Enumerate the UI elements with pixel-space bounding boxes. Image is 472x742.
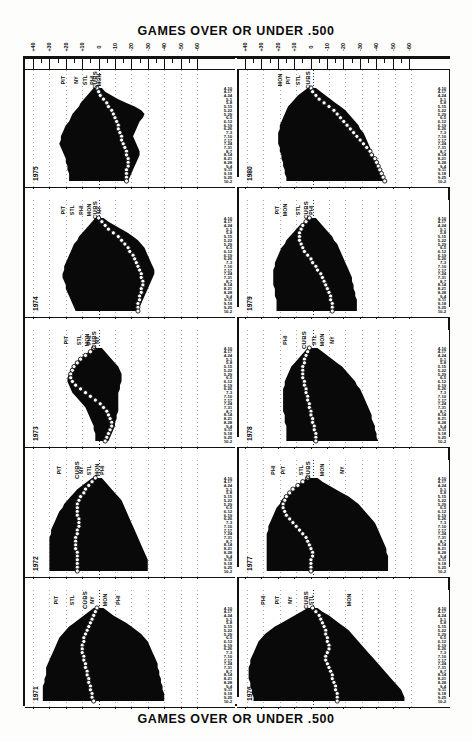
team-label-pit: PIT: [53, 596, 59, 605]
team-label-mon: MON: [346, 594, 352, 607]
axis-tick-label: -10: [324, 43, 330, 51]
cubs-data-point: [136, 309, 140, 313]
season-panel-1977: PHIPITSTLCUBSMONNY19774-104-174-245-15-8…: [239, 460, 449, 577]
cubs-data-point: [314, 93, 318, 97]
team-label-cubs: CUBS: [305, 71, 311, 89]
team-label-stl: STL: [69, 595, 75, 605]
date-label: 10-2: [224, 569, 232, 574]
cubs-data-point: [335, 699, 339, 703]
team-label-pit: PIT: [60, 76, 66, 85]
cubs-data-point: [75, 361, 79, 365]
cubs-data-point: [101, 405, 105, 409]
cubs-data-point: [311, 90, 315, 94]
cubs-data-point: [93, 476, 97, 480]
team-label-pit: PIT: [280, 466, 286, 475]
cubs-data-point: [311, 261, 315, 265]
team-label-ny: NY: [329, 336, 335, 344]
team-label-phi: PHI: [260, 595, 266, 604]
season-year-label: 1976: [246, 686, 253, 701]
standings-spread-band: [49, 478, 147, 571]
cubs-data-point: [288, 517, 292, 521]
series-layer: [239, 200, 449, 317]
date-label: 10-2: [438, 569, 446, 574]
team-label-stl: STL: [311, 335, 317, 345]
axis-tick-label: -50: [178, 43, 184, 51]
team-label-stl: STL: [298, 465, 304, 475]
cubs-data-point: [314, 610, 318, 614]
date-label: 10-2: [224, 699, 232, 704]
team-label-ny: NY: [73, 76, 79, 84]
team-label-mon: MON: [319, 464, 325, 477]
page-title-top: GAMES OVER OR UNDER .500: [0, 24, 472, 38]
season-year-label: 1977: [246, 556, 253, 571]
team-label-mon: MON: [282, 204, 288, 217]
cubs-data-point: [352, 131, 356, 135]
season-panel-1972: PITCUBSNYSTLMONPHI19724-104-174-245-15-8…: [25, 460, 235, 577]
cubs-data-point: [302, 249, 306, 253]
axis-tick-label: +20: [275, 42, 281, 51]
cubs-data-point: [330, 309, 334, 313]
axis-tick-label: -60: [194, 43, 200, 51]
axis-tick-label: -30: [357, 43, 363, 51]
season-panel-1978: PHICUBSSTLMONNY19784-104-174-245-15-85-1…: [239, 330, 449, 447]
season-year-label: 1971: [32, 686, 39, 701]
series-layer: [239, 70, 449, 187]
axis-tick-label: -30: [145, 43, 151, 51]
cubs-data-point: [291, 521, 295, 525]
axis-tick-label: -60: [406, 43, 412, 51]
season-panel-1980: MONPITSTLCUBS19804-104-174-245-15-85-155…: [239, 70, 449, 187]
cubs-data-point: [123, 242, 127, 246]
season-year-label: 1974: [32, 296, 39, 311]
cubs-data-point: [90, 480, 94, 484]
team-label-cubs: CUBS: [82, 591, 88, 609]
team-label-phi: PHI: [89, 75, 95, 84]
series-layer: [25, 200, 235, 317]
team-label-pit: PIT: [60, 206, 66, 215]
team-label-cubs: CUBS: [301, 331, 307, 349]
standings-spread-band: [267, 478, 388, 571]
team-label-pit: PIT: [274, 206, 280, 215]
cubs-data-point: [322, 101, 326, 105]
season-panel-1975: PITNYSTLCUBSMONPHI19754-104-174-245-15-8…: [25, 70, 235, 187]
team-label-ny: NY: [78, 466, 84, 474]
team-label-stl: STL: [295, 75, 301, 85]
team-label-stl: STL: [308, 595, 314, 605]
axis-tick-label: 0: [308, 45, 314, 48]
cubs-data-point: [88, 394, 92, 398]
cubs-data-point: [75, 569, 79, 573]
team-label-cubs: CUBS: [305, 461, 311, 479]
cubs-data-point: [119, 238, 123, 242]
axis-tick-label: 0: [96, 45, 102, 48]
cubs-data-point: [309, 569, 313, 573]
team-label-mon: MON: [96, 74, 102, 87]
cubs-data-point: [83, 391, 87, 395]
cubs-data-point: [311, 606, 315, 610]
cubs-data-point: [78, 357, 82, 361]
cubs-data-point: [348, 127, 352, 131]
team-label-pit: PIT: [56, 466, 62, 475]
cubs-data-point: [98, 93, 102, 97]
cubs-data-point: [365, 145, 369, 149]
team-label-phi: PHI: [86, 335, 92, 344]
standings-spread-band: [59, 88, 144, 181]
cubs-data-point: [296, 483, 300, 487]
cubs-data-point: [338, 116, 342, 120]
series-layer: [25, 330, 235, 447]
cubs-data-point: [100, 220, 104, 224]
cubs-data-point: [306, 253, 310, 257]
cubs-data-point: [294, 524, 298, 528]
cubs-data-point: [317, 97, 321, 101]
season-year-label: 1973: [32, 426, 39, 441]
cubs-data-point: [92, 699, 96, 703]
cubs-data-point: [103, 223, 107, 227]
axis-tick-label: -10: [112, 43, 118, 51]
cubs-data-point: [70, 379, 74, 383]
cubs-data-point: [111, 231, 115, 235]
cubs-data-point: [358, 138, 362, 142]
team-label-phi: PHI: [78, 205, 84, 214]
standings-spread-band: [43, 608, 164, 701]
cubs-data-point: [124, 179, 128, 183]
cubs-data-point: [93, 398, 97, 402]
cubs-data-point: [332, 108, 336, 112]
date-label: 10-2: [224, 179, 232, 184]
